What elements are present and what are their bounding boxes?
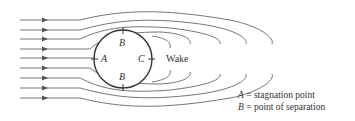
label-a: A [100,53,108,64]
label-b-bottom: B [119,71,125,82]
legend-item-b: B = point of separation [238,101,325,113]
label-wake: Wake [166,53,189,64]
legend-item-a: A = stagnation point [238,89,325,101]
label-c: C [138,53,145,64]
legend: A = stagnation point B = point of separa… [238,89,325,113]
label-b-top: B [119,37,125,48]
arrow-icons [42,18,48,101]
